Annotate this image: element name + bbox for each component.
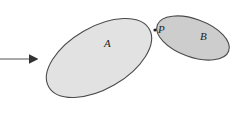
contact-point-marker xyxy=(153,28,156,31)
body-a-label: A xyxy=(103,37,111,49)
body-b-ellipse xyxy=(151,7,235,69)
contact-point-label: P xyxy=(157,23,165,35)
collision-diagram: A B P xyxy=(0,0,241,130)
body-b-label: B xyxy=(200,30,207,42)
diagram-canvas: A B P xyxy=(0,0,241,130)
body-a-ellipse xyxy=(33,2,164,114)
